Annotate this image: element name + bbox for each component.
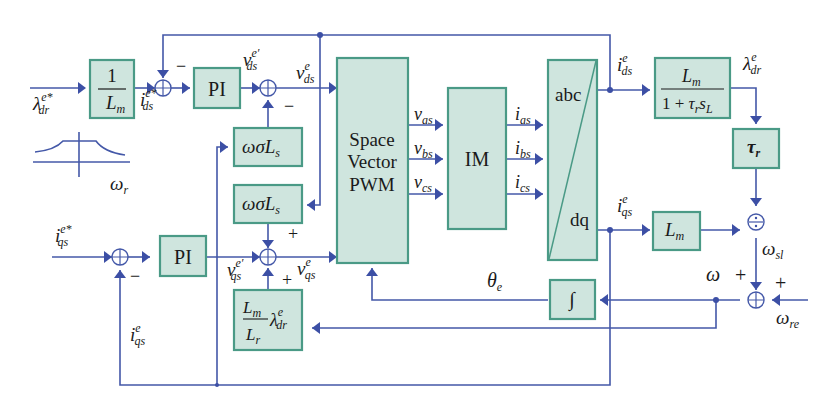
iqs-label: ieqs: [617, 192, 633, 219]
vector-control-block-diagram: 1 Lm PI PI ωσLs ωσLs Lm Lr λedr Space Ve…: [0, 0, 833, 415]
lambda-dr-label: λedr: [742, 50, 762, 77]
iqs-feedback-label: ieqs: [130, 321, 146, 348]
wsls-lower-label: ωσLs: [242, 193, 280, 217]
sum-junction-d-error: [155, 80, 171, 96]
ids-label: ieds: [617, 51, 633, 78]
sum-junction-q-decouple: [260, 249, 276, 265]
theta-e-label: θe: [487, 269, 503, 294]
abc-label: abc: [555, 84, 581, 105]
ias-label: ias: [515, 104, 531, 127]
vbs-label: vbs: [414, 138, 433, 161]
svpwm-line3: PWM: [349, 174, 395, 195]
sign-plus-omega-top: +: [735, 264, 746, 286]
ids-ref-label: ie*ds: [140, 86, 157, 113]
ics-label: ics: [515, 172, 530, 195]
omega-label: ω: [706, 263, 720, 285]
sign-plus-q-bottom: +: [282, 270, 292, 290]
omega-r-label: ωr: [110, 173, 128, 197]
vqs-label: veqs: [297, 255, 316, 282]
ibs-label: ibs: [515, 138, 531, 161]
vas-label: vas: [414, 104, 433, 127]
omega-sl-label: ωsl: [762, 238, 784, 262]
vqs-prime-label: ve′qs: [227, 256, 244, 283]
speed-flux-profile-graph: [33, 132, 130, 177]
sum-junction-q-error: [112, 249, 128, 265]
flux-tf-den: 1 + τrsL: [662, 94, 713, 116]
inv-lm-num: 1: [107, 65, 117, 86]
sign-plus-omega-right: +: [775, 272, 786, 294]
svpwm-line2: Vector: [347, 151, 397, 172]
dq-label: dq: [570, 209, 590, 230]
svpwm-line1: Space: [349, 129, 394, 150]
divider-junction: [748, 214, 764, 230]
sum-junction-omega: [748, 292, 764, 308]
omega-re-label: ωre: [776, 307, 800, 331]
sum-junction-d-decouple: [260, 80, 276, 96]
vds-label: veds: [296, 59, 315, 86]
wsls-upper-label: ωσLs: [242, 136, 280, 160]
sign-minus-d2: −: [284, 96, 294, 116]
sign-plus-q-top: +: [288, 224, 298, 244]
sign-minus-q1: −: [130, 266, 140, 286]
lambda-ref-label: λe*dr: [32, 90, 53, 117]
im-label: IM: [465, 148, 490, 170]
sign-minus-d1: −: [176, 56, 186, 76]
pi-q-label: PI: [174, 246, 192, 268]
vcs-label: vcs: [414, 172, 432, 195]
iqs-ref-label: ie*qs: [55, 222, 72, 249]
vds-prime-label: ve′ds: [243, 46, 260, 73]
pi-d-label: PI: [208, 78, 226, 100]
